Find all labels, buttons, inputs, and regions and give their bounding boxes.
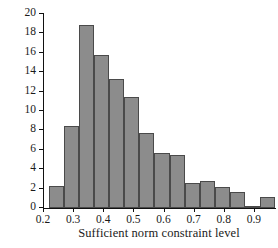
y-axis-tick-label: 16 — [25, 45, 37, 58]
x-axis-tick-label: 0.5 — [126, 213, 140, 226]
histogram-bar — [124, 97, 139, 208]
histogram-bar — [185, 183, 200, 208]
y-axis-tick-label: 2 — [30, 181, 36, 194]
histogram-bar — [170, 155, 185, 208]
y-axis-title: Percent of realizations — [0, 0, 22, 22]
histogram-bar — [139, 133, 154, 208]
plot-area: 024681012141618200.20.30.40.50.60.70.80.… — [43, 14, 275, 208]
x-axis-tick-label: 0.7 — [186, 213, 200, 226]
x-axis-tick-label: 0.4 — [96, 213, 110, 226]
x-axis-tick-label: 0.6 — [156, 213, 170, 226]
x-axis-tick: 0.4 — [103, 208, 104, 212]
histogram-bar — [49, 186, 64, 208]
y-axis-tick-label: 6 — [30, 142, 36, 155]
y-axis-tick-label: 12 — [25, 84, 37, 97]
histogram-bar — [154, 153, 169, 208]
histogram-bar — [79, 25, 94, 208]
y-axis-tick-label: 14 — [25, 64, 37, 77]
histogram-bar — [200, 181, 215, 208]
y-axis-tick: 10 — [39, 110, 43, 111]
y-axis-tick: 4 — [39, 168, 43, 169]
x-axis-tick: 0.8 — [224, 208, 225, 212]
histogram-bar — [260, 197, 275, 208]
x-axis-tick: 0.6 — [164, 208, 165, 212]
y-axis-tick-label: 8 — [30, 122, 36, 135]
y-axis-tick: 6 — [39, 149, 43, 150]
histogram-bar — [64, 126, 79, 208]
x-axis-tick-label: 0.9 — [247, 213, 261, 226]
y-axis-tick: 20 — [39, 13, 43, 14]
y-axis-tick-label: 4 — [30, 161, 36, 174]
y-axis-tick-label: 20 — [25, 6, 37, 19]
y-axis-tick: 16 — [39, 52, 43, 53]
y-axis-tick: 12 — [39, 91, 43, 92]
histogram-figure: Percent of realizations 0246810121416182… — [0, 0, 278, 248]
x-axis-tick-label: 0.8 — [217, 213, 231, 226]
histogram-bar — [230, 192, 245, 208]
y-axis-tick: 18 — [39, 32, 43, 33]
y-axis-tick: 8 — [39, 129, 43, 130]
y-axis-title-text: Percent of realizations — [0, 0, 22, 22]
histogram-bar — [94, 55, 109, 208]
histogram-bar — [215, 187, 230, 208]
y-axis-tick: 2 — [39, 188, 43, 189]
x-axis-line — [43, 208, 276, 209]
x-axis-tick: 0.7 — [194, 208, 195, 212]
x-axis-title: Sufficient norm constraint level — [43, 226, 275, 241]
x-axis-tick: 0.3 — [73, 208, 74, 212]
x-axis-tick-label: 0.2 — [36, 213, 50, 226]
y-axis-tick-label: 10 — [25, 103, 37, 116]
y-axis-tick-label: 18 — [25, 25, 37, 38]
histogram-bar — [245, 206, 260, 208]
y-axis-tick-label: 0 — [30, 200, 36, 213]
x-axis-tick-label: 0.3 — [66, 213, 80, 226]
x-axis-tick: 0.9 — [254, 208, 255, 212]
x-axis-tick: 0.2 — [43, 208, 44, 212]
x-axis-tick: 0.5 — [133, 208, 134, 212]
histogram-bar — [109, 79, 124, 208]
y-axis-tick: 14 — [39, 71, 43, 72]
